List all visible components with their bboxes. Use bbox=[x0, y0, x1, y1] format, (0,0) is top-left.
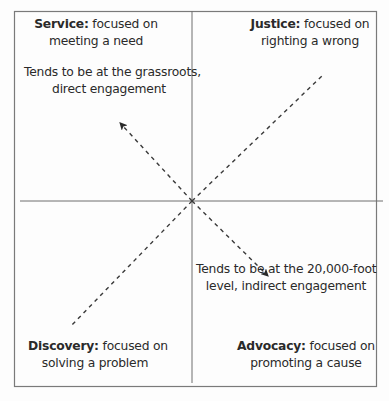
discovery-line2: solving a problem bbox=[28, 355, 162, 372]
dashed-line-upper-right bbox=[192, 74, 324, 201]
twentythousand-line1: Tends to be at the 20,000-foot bbox=[196, 261, 376, 278]
advocacy-line1: focused on bbox=[306, 339, 375, 353]
quadrant-label-advocacy: Advocacy: focused on promoting a cause bbox=[237, 338, 375, 372]
quadrant-label-service: Service: focused on meeting a need bbox=[30, 16, 162, 50]
justice-line2: righting a wrong bbox=[244, 33, 376, 50]
grassroots-line1: Tends to be at the grassroots, bbox=[24, 64, 194, 81]
discovery-title: Discovery: bbox=[28, 339, 99, 353]
dashed-line-lower-left bbox=[72, 201, 192, 325]
quadrant-label-justice: Justice: focused on righting a wrong bbox=[244, 16, 376, 50]
twentythousand-line2: level, indirect engagement bbox=[196, 278, 376, 295]
annotation-20000-foot: Tends to be at the 20,000-foot level, in… bbox=[196, 261, 376, 295]
justice-title: Justice: bbox=[251, 17, 301, 31]
advocacy-title: Advocacy: bbox=[237, 339, 306, 353]
service-line2: meeting a need bbox=[30, 33, 162, 50]
arrow-upper-left bbox=[122, 125, 192, 201]
annotation-grassroots: Tends to be at the grassroots, direct en… bbox=[24, 64, 194, 98]
grassroots-line2: direct engagement bbox=[24, 81, 194, 98]
service-line1: focused on bbox=[89, 17, 158, 31]
quadrant-label-discovery: Discovery: focused on solving a problem bbox=[28, 338, 162, 372]
advocacy-line2: promoting a cause bbox=[237, 355, 375, 372]
service-title: Service: bbox=[34, 17, 88, 31]
discovery-line1: focused on bbox=[99, 339, 168, 353]
justice-line1: focused on bbox=[300, 17, 369, 31]
